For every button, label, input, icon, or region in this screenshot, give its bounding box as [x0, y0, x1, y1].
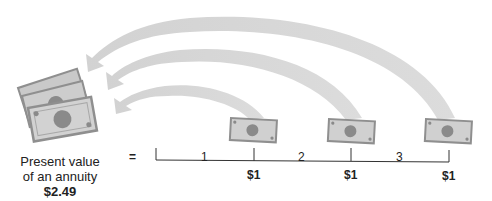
payment-label-3: $1: [442, 169, 455, 183]
discount-arrow-2: [106, 49, 362, 120]
present-value-line1: Present value: [10, 154, 110, 169]
money-stack-icon: [18, 69, 97, 142]
dollar-bill-icon-3: [425, 119, 472, 143]
present-value-amount: $2.49: [10, 184, 110, 199]
present-value-label: Present value of an annuity $2.49: [10, 154, 110, 199]
equals-sign: =: [129, 150, 136, 164]
annuity-diagram: Present value of an annuity $2.49 = 1 2 …: [0, 0, 492, 201]
discount-arrow-1: [114, 85, 264, 120]
period-label-2: 2: [298, 150, 305, 164]
payment-label-1: $1: [247, 168, 260, 182]
period-label-3: 3: [396, 150, 403, 164]
period-label-1: 1: [201, 150, 208, 164]
dollar-bill-icon-2: [328, 119, 375, 143]
present-value-line2: of an annuity: [10, 169, 110, 184]
payment-label-2: $1: [344, 168, 357, 182]
dollar-bill-icon-1: [230, 118, 277, 142]
